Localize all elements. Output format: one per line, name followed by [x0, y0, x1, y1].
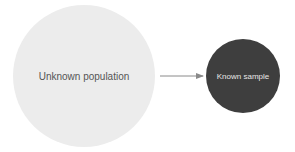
diagram-canvas: Unknown population Known sample [0, 0, 295, 152]
sample-label: Known sample [217, 72, 270, 81]
node-known-sample: Known sample [206, 39, 280, 113]
population-label: Unknown population [39, 71, 130, 82]
node-unknown-population: Unknown population [13, 5, 155, 147]
